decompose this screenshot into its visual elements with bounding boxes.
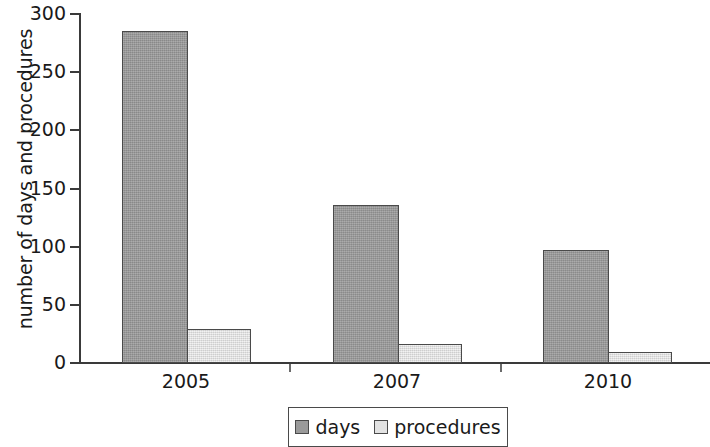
legend-entry-procedures: procedures — [374, 416, 500, 438]
bar-days-2007 — [333, 205, 399, 363]
y-tick-200 — [70, 129, 79, 131]
bar-days-2010 — [543, 250, 609, 363]
y-tick-100 — [70, 246, 79, 248]
x-axis-label-2010: 2010 — [548, 370, 668, 392]
legend-entry-days: days — [295, 416, 360, 438]
y-axis-line — [79, 13, 81, 364]
y-tick-label-250: 250 — [0, 62, 66, 81]
bar-procedures-2007 — [398, 344, 462, 363]
y-tick-label-50: 50 — [0, 295, 66, 314]
y-tick-label-300: 300 — [0, 4, 66, 23]
y-tick-label-0: 0 — [0, 353, 66, 372]
y-tick-label-200: 200 — [0, 120, 66, 139]
y-tick-label-150: 150 — [0, 179, 66, 198]
y-tick-0 — [70, 362, 79, 364]
legend-swatch-days-icon — [295, 420, 309, 434]
y-tick-50 — [70, 304, 79, 306]
bar-days-2005 — [122, 31, 188, 363]
x-tick-separator-2 — [500, 364, 502, 372]
x-tick-separator-1 — [289, 364, 291, 372]
bar-procedures-2010 — [608, 352, 672, 363]
bar-procedures-2005 — [187, 329, 251, 363]
x-axis-label-2007: 2007 — [337, 370, 457, 392]
chart-legend: days procedures — [288, 407, 508, 447]
y-tick-150 — [70, 188, 79, 190]
y-tick-250 — [70, 71, 79, 73]
legend-label-days: days — [315, 416, 360, 438]
y-tick-300 — [70, 13, 79, 15]
x-axis-label-2005: 2005 — [126, 370, 246, 392]
legend-swatch-procedures-icon — [374, 420, 388, 434]
y-tick-label-100: 100 — [0, 237, 66, 256]
legend-label-procedures: procedures — [394, 416, 500, 438]
